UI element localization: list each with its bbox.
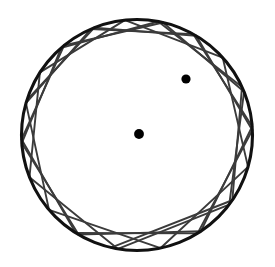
figure-root (0, 0, 275, 267)
focus-upper-right (181, 74, 190, 83)
billiard-diagram (0, 0, 275, 267)
focus-lower-left (134, 129, 144, 139)
